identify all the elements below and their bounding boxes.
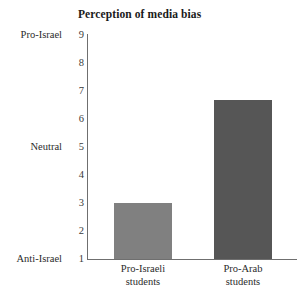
y-anchor-label-anti-israel: Anti-Israel [0, 254, 62, 264]
y-axis-line [87, 34, 88, 260]
y-tick-label-8: 8 [44, 58, 84, 68]
x-category-label-2-line2: students [214, 276, 272, 289]
chart-title: Perception of media bias [78, 8, 201, 21]
y-anchor-label-neutral: Neutral [0, 142, 62, 152]
bar-1[interactable] [114, 203, 172, 259]
bar-chart: Perception of media bias 987654321 Pro-I… [0, 0, 303, 291]
y-anchor-label-pro-israel: Pro-Israel [0, 30, 62, 40]
y-tick-label-4: 4 [44, 170, 84, 180]
x-category-label-1: Pro-Israelistudents [114, 263, 172, 288]
y-tick-label-7: 7 [44, 86, 84, 96]
y-tick-label-2: 2 [44, 226, 84, 236]
x-category-label-1-line2: students [114, 276, 172, 289]
x-category-label-2-line1: Pro-Arab [214, 263, 272, 276]
y-tick-label-6: 6 [44, 114, 84, 124]
x-category-label-2: Pro-Arabstudents [214, 263, 272, 288]
x-axis-line [87, 259, 297, 260]
bar-2[interactable] [214, 100, 272, 259]
y-tick-label-3: 3 [44, 198, 84, 208]
x-category-label-1-line1: Pro-Israeli [114, 263, 172, 276]
